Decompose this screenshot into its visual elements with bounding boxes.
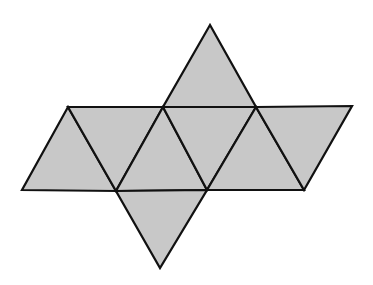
triangle-face-1 [163,25,256,107]
triangle-face-8 [116,190,207,268]
octahedron-net-diagram [0,0,373,285]
